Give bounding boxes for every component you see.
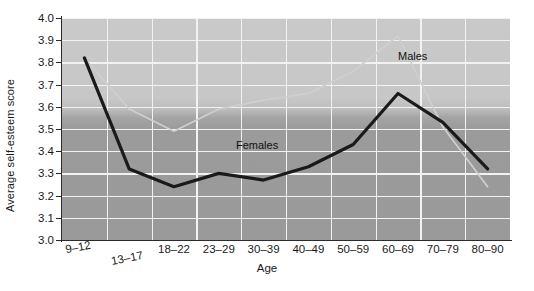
x-tick-label: 23–29 bbox=[203, 243, 235, 255]
y-tick-mark bbox=[56, 85, 61, 86]
x-tick-label: 40–49 bbox=[292, 243, 324, 255]
y-tick-mark bbox=[56, 107, 61, 108]
y-tick-mark bbox=[56, 18, 61, 19]
x-tick-label: 9–12 bbox=[65, 239, 92, 256]
x-tick-label: 50–59 bbox=[337, 243, 369, 255]
x-tick-label: 30–39 bbox=[248, 243, 280, 255]
x-tick-label: 18–22 bbox=[158, 243, 190, 255]
y-tick-mark bbox=[56, 129, 61, 130]
chart-figure: Average self-esteem score 3.03.13.23.33.… bbox=[0, 0, 534, 291]
x-tick-label: 60–69 bbox=[382, 243, 414, 255]
y-tick-mark bbox=[56, 218, 61, 219]
x-axis-title: Age bbox=[0, 262, 534, 274]
x-tick-label: 80–90 bbox=[472, 243, 504, 255]
y-tick-mark bbox=[56, 240, 61, 241]
x-tick-label: 70–79 bbox=[427, 243, 459, 255]
y-tick-mark bbox=[56, 173, 61, 174]
y-tick-mark bbox=[56, 62, 61, 63]
y-tick-mark bbox=[56, 151, 61, 152]
y-tick-mark bbox=[56, 196, 61, 197]
x-axis-tick-labels: 9–1213–1718–2223–2930–3940–4950–5960–697… bbox=[0, 0, 534, 291]
y-tick-mark bbox=[56, 40, 61, 41]
